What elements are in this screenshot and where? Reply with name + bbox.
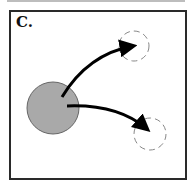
diagram-canvas xyxy=(0,0,192,185)
arrow-to-upper-target xyxy=(62,46,133,97)
target-upper-dashed-circle xyxy=(119,31,149,61)
source-circle xyxy=(27,82,79,134)
